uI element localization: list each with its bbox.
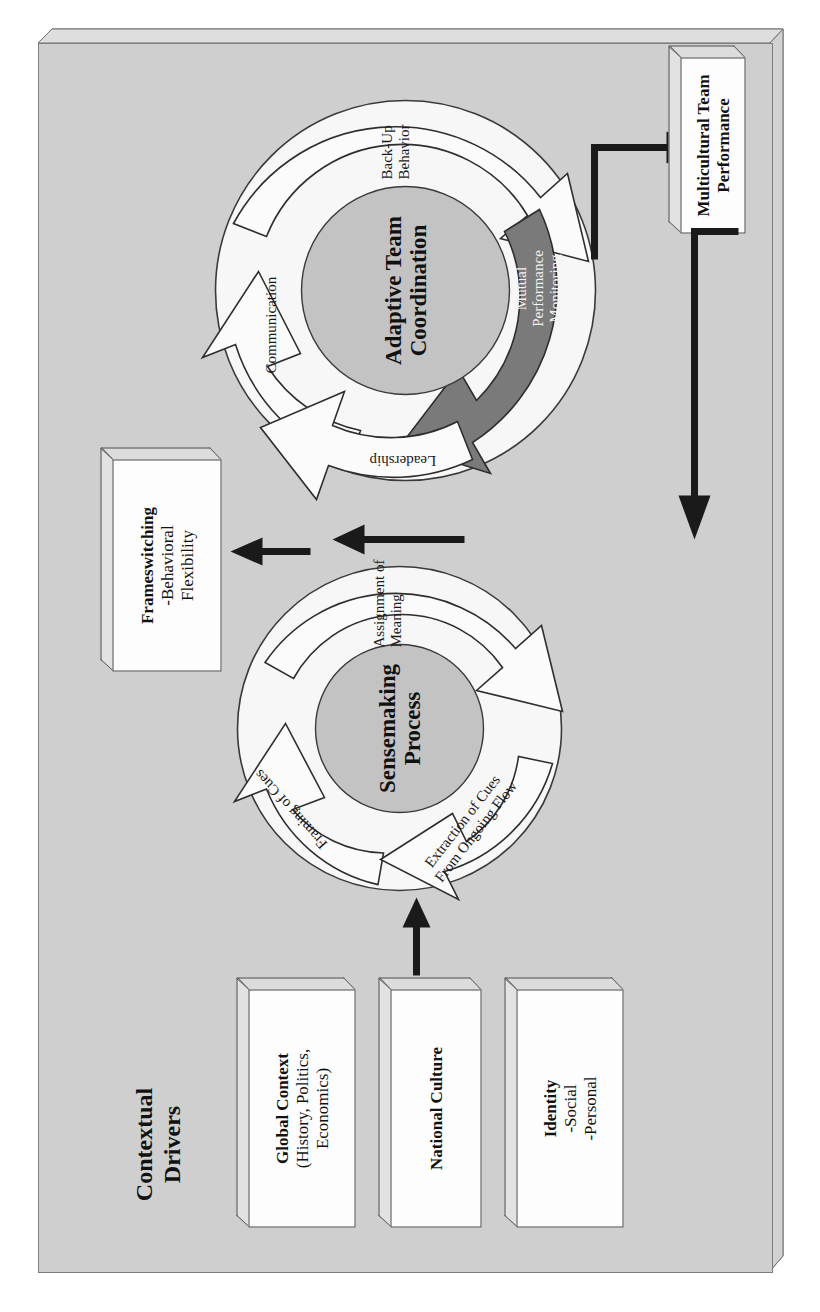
box-global-context[interactable]: Global Context (History, Politics, Econo… xyxy=(236,989,356,1227)
box-frameswitching-label: Frameswitching -Behavioral Flexibility xyxy=(133,500,201,629)
box-heading: Identity xyxy=(540,1076,560,1140)
figure-page: Contextual Drivers Global Context (Histo… xyxy=(0,0,820,1312)
box-front-face: Multicultural Team Performance xyxy=(680,57,745,233)
box-top-face xyxy=(504,977,517,1227)
segment-label-line3: Monitoring xyxy=(546,254,562,322)
box-side-face xyxy=(668,45,745,57)
box-performance-label: Multicultural Team Performance xyxy=(689,68,737,222)
box-top-face xyxy=(378,977,391,1227)
box-national-culture-label: National Culture xyxy=(422,1041,450,1176)
box-heading: National Culture xyxy=(426,1047,446,1170)
rotated-content: Contextual Drivers Global Context (Histo… xyxy=(38,43,771,1271)
arrow-frameswitching-to-coordination xyxy=(214,531,310,571)
coordination-hub-line2: Coordination xyxy=(405,224,430,356)
box-top-face xyxy=(236,977,249,1227)
coordination-segment-communication: Communication xyxy=(262,276,279,373)
box-sub-2: Economics) xyxy=(312,1048,332,1167)
box-front-face: Global Context (History, Politics, Econo… xyxy=(248,989,355,1227)
box-sub-1: -Behavioral xyxy=(157,506,177,623)
figure-canvas: Contextual Drivers Global Context (Histo… xyxy=(38,43,771,1271)
sensemaking-hub: Sensemaking Process xyxy=(315,644,483,812)
box-sub-1: Performance xyxy=(713,74,733,216)
box-side-face xyxy=(236,977,355,989)
segment-label-text: Leadership xyxy=(369,452,436,468)
box-side-face xyxy=(100,447,221,459)
box-top-face xyxy=(100,447,113,671)
segment-label-line1: Assignment of xyxy=(370,559,386,647)
arrow-context-to-sensemaking xyxy=(396,895,436,975)
segment-label-line1: Mutual xyxy=(512,266,528,309)
arrow-sensemaking-to-coordination xyxy=(324,519,464,559)
box-identity-label: Identity -Social -Personal xyxy=(536,1070,604,1146)
box-side-face xyxy=(504,977,623,989)
coordination-segment-back-up-behavior: Back-Up Behavior xyxy=(378,89,412,179)
box-identity[interactable]: Identity -Social -Personal xyxy=(504,989,624,1227)
coordination-segment-leadership: Leadership xyxy=(369,451,436,468)
box-multicultural-team-performance[interactable]: Multicultural Team Performance xyxy=(668,57,746,233)
box-sub-2: Flexibility xyxy=(177,506,197,623)
contextual-drivers-title: Contextual Drivers xyxy=(130,1039,185,1249)
coordination-segment-mutual-performance-monitoring: Mutual Performance Monitoring xyxy=(512,223,562,353)
segment-label-line1: Back-Up xyxy=(378,125,394,179)
contextual-title-line2: Drivers xyxy=(158,1105,184,1182)
box-heading: Global Context xyxy=(272,1048,292,1167)
sensemaking-hub-label: Sensemaking Process xyxy=(374,663,425,792)
sensemaking-hub-line2: Process xyxy=(399,691,424,765)
box-frameswitching[interactable]: Frameswitching -Behavioral Flexibility xyxy=(100,459,222,671)
segment-label-line2: Meaning xyxy=(387,594,403,647)
box-global-context-label: Global Context (History, Politics, Econo… xyxy=(268,1042,336,1173)
box-front-face: National Culture xyxy=(390,989,481,1227)
outer-panel: Contextual Drivers Global Context (Histo… xyxy=(24,28,784,1286)
box-heading: Frameswitching xyxy=(137,506,157,623)
box-sub-2: -Personal xyxy=(580,1076,600,1140)
box-side-face xyxy=(378,977,481,989)
coordination-hub-label: Adaptive Team Coordination xyxy=(380,216,431,365)
segment-label-text: Communication xyxy=(262,276,278,373)
coordination-hub-line1: Adaptive Team xyxy=(380,216,405,365)
box-heading: Multicultural Team xyxy=(693,74,713,216)
box-front-face: Identity -Social -Personal xyxy=(516,989,623,1227)
segment-label-line2: Behavior xyxy=(395,124,411,179)
coordination-cycle: Adaptive Team Coordination Communication… xyxy=(210,95,600,485)
box-sub-1: -Social xyxy=(560,1076,580,1140)
contextual-title-line1: Contextual xyxy=(130,1087,156,1200)
coordination-hub: Adaptive Team Coordination xyxy=(301,186,509,394)
sensemaking-cycle: Sensemaking Process Framing of Cues Assi… xyxy=(234,563,564,893)
sensemaking-hub-line1: Sensemaking xyxy=(374,663,399,792)
box-national-culture[interactable]: National Culture xyxy=(378,989,482,1227)
segment-label-line2: Performance xyxy=(529,250,545,327)
box-sub-1: (History, Politics, xyxy=(292,1048,312,1167)
box-top-face xyxy=(668,45,681,233)
arrow-performance-to-sensemaking xyxy=(672,219,742,559)
box-front-face: Frameswitching -Behavioral Flexibility xyxy=(112,459,221,671)
